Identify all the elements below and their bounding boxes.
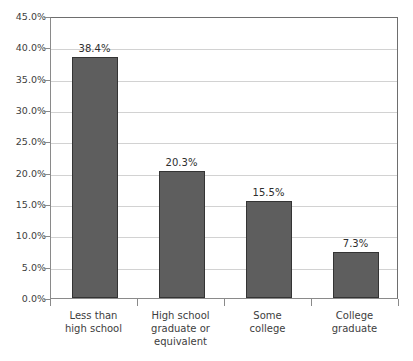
- bar-value-label: 20.3%: [166, 157, 198, 168]
- bar-slot: 38.4%: [51, 18, 138, 298]
- bar-slot: 20.3%: [138, 18, 225, 298]
- bar-slot: 15.5%: [225, 18, 312, 298]
- bar-value-label: 38.4%: [79, 43, 111, 54]
- x-axis-category-label-line: Some: [224, 309, 311, 322]
- bar[interactable]: [72, 57, 118, 298]
- x-axis-category-label-line: High school: [137, 309, 224, 322]
- x-axis-tick-mark: [398, 299, 399, 306]
- x-axis-category-label-line: high school: [50, 322, 137, 335]
- x-axis-tick-mark: [50, 299, 51, 306]
- bar-slot: 7.3%: [312, 18, 399, 298]
- bar-value-label: 7.3%: [343, 238, 368, 249]
- x-axis-category-label-line: graduate: [311, 322, 398, 335]
- bar[interactable]: [333, 252, 379, 298]
- bar[interactable]: [159, 171, 205, 298]
- x-axis-category-label-line: graduate or: [137, 322, 224, 335]
- x-axis-category-label: Less thanhigh school: [50, 309, 137, 335]
- x-axis-category-label: Collegegraduate: [311, 309, 398, 335]
- bar-chart: 0.0%5.0%10.0%15.0%20.0%25.0%30.0%35.0%40…: [0, 0, 413, 361]
- x-axis-category-label: High schoolgraduate orequivalent: [137, 309, 224, 348]
- x-axis-category-label: Somecollege: [224, 309, 311, 335]
- bar-value-label: 15.5%: [253, 187, 285, 198]
- x-axis-tick-mark: [311, 299, 312, 306]
- x-axis-category-label-line: College: [311, 309, 398, 322]
- x-axis-category-label-line: Less than: [50, 309, 137, 322]
- bar[interactable]: [246, 201, 292, 298]
- x-axis-tick-mark: [137, 299, 138, 306]
- x-axis-category-label-line: equivalent: [137, 335, 224, 348]
- y-axis-ticks: [0, 0, 50, 361]
- plot-area: 38.4%20.3%15.5%7.3%: [50, 17, 398, 299]
- x-axis-category-label-line: college: [224, 322, 311, 335]
- x-axis-tick-mark: [224, 299, 225, 306]
